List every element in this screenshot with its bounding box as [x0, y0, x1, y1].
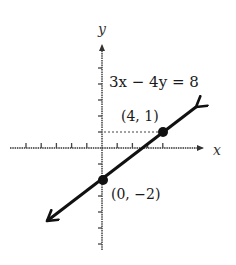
point-4-1-label: (4, 1) — [121, 108, 159, 124]
x-axis-label: x — [213, 142, 221, 158]
y-axis-label: y — [97, 21, 107, 37]
graphed-line — [47, 107, 196, 221]
x-axis — [10, 143, 203, 148]
point-0-neg2 — [98, 175, 108, 185]
point-4-1 — [158, 127, 168, 137]
line-graph: y x 3x − 4y = 8 (4, 1) (0, −2) — [0, 0, 236, 265]
point-0-neg2-label: (0, −2) — [111, 186, 160, 202]
equation-label: 3x − 4y = 8 — [109, 73, 199, 91]
